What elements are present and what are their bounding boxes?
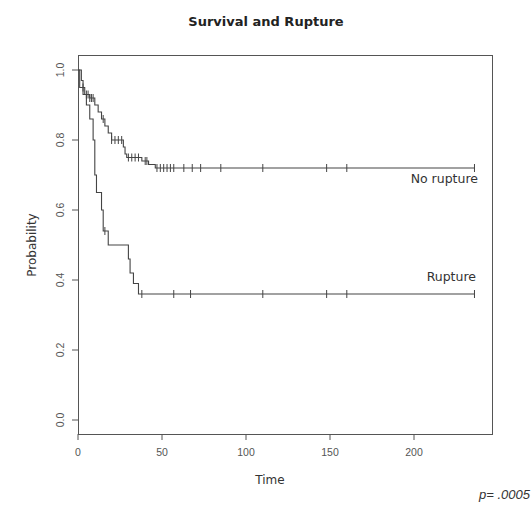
x-tick-label: 50 [156,446,168,458]
y-axis: 0.00.20.40.60.81.0 [54,63,78,428]
x-tick-label: 0 [75,446,81,458]
series-label-rupture: Rupture [427,269,477,284]
x-tick-label: 200 [405,446,423,458]
series-no-rupture [78,70,474,172]
x-axis-title: Time [254,473,284,487]
y-tick-label: 0.8 [54,133,66,148]
x-tick-label: 150 [321,446,339,458]
x-tick-label: 100 [237,446,255,458]
x-axis: 050100150200 [75,434,423,458]
y-tick-label: 0.4 [54,273,66,288]
y-tick-label: 0.2 [54,343,66,358]
y-tick-label: 0.6 [54,203,66,218]
y-tick-label: 0.0 [54,413,66,428]
plot-frame [79,56,493,435]
y-tick-label: 1.0 [54,63,66,78]
p-value-annotation: p= .0005 [479,487,530,502]
y-axis-title: Probability [25,213,39,276]
km-plot: 0.00.20.40.60.81.0 050100150200 Time Pro… [0,0,532,516]
series-label-no-rupture: No rupture [411,171,479,186]
